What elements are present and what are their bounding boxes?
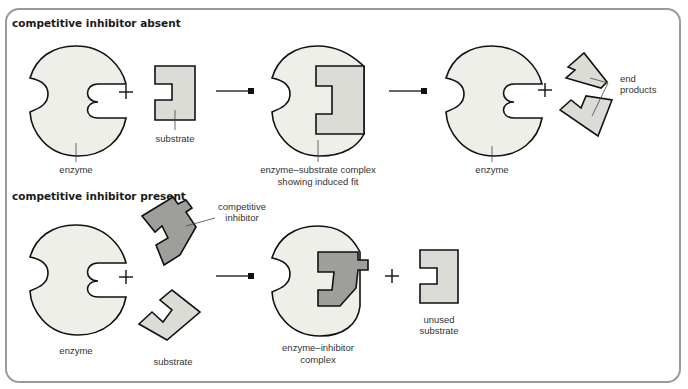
label-substrate: substrate [155, 133, 194, 144]
label-substrate-2: substrate [153, 356, 192, 367]
label-end-products-2: products [620, 84, 657, 95]
label-unused-substrate-1: unused [423, 314, 454, 325]
label-competitive-inhibitor-2: inhibitor [225, 212, 258, 223]
competitive-inhibitor-shape [142, 197, 196, 265]
end-product-2 [560, 96, 612, 136]
enzyme-shape-2 [446, 46, 542, 156]
label-enzyme-2: enzyme [475, 164, 508, 175]
label-es-complex-2: showing induced fit [278, 176, 359, 187]
enzyme-shape [30, 46, 126, 156]
label-enzyme-3: enzyme [59, 345, 92, 356]
label-unused-substrate-2: substrate [419, 325, 458, 336]
enzyme-substrate-complex [272, 46, 364, 156]
label-end-products-1: end [620, 73, 636, 84]
enzyme-inhibitor-complex [272, 226, 368, 336]
enzyme-diagram: competitive inhibitor absent enzyme subs… [0, 0, 688, 389]
heading-inhibitor-present: competitive inhibitor present [12, 190, 186, 202]
label-ei-complex-1: enzyme–inhibitor [282, 342, 354, 353]
enzyme-shape-3 [30, 225, 126, 335]
label-enzyme: enzyme [59, 164, 92, 175]
end-product-1 [566, 53, 607, 88]
label-es-complex-1: enzyme–substrate complex [260, 164, 376, 175]
unused-substrate-shape [420, 250, 458, 303]
label-competitive-inhibitor-1: competitive [218, 201, 266, 212]
heading-inhibitor-absent: competitive inhibitor absent [12, 17, 181, 29]
label-ei-complex-2: complex [300, 354, 336, 365]
substrate-shape-2 [139, 290, 200, 340]
